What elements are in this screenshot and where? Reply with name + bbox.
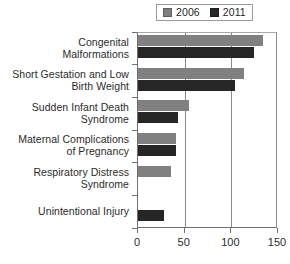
x-axis-tick-0 <box>137 228 138 233</box>
legend-label-2011: 2011 <box>223 6 246 18</box>
bar-2011-sudden-infant-death-syndrome[interactable] <box>138 112 178 123</box>
bar-group-congenital-malformations <box>138 33 276 66</box>
legend-swatch-2011-icon <box>210 8 219 17</box>
category-label-line: Short Gestation and Low <box>0 68 129 80</box>
category-label-maternal-complications-of-pregnancy: Maternal Complications of Pregnancy <box>0 133 129 158</box>
category-label-sudden-infant-death-syndrome: Sudden Infant Death Syndrome <box>0 101 129 126</box>
bar-group-sudden-infant-death-syndrome <box>138 98 276 131</box>
x-axis-label-100: 100 <box>221 236 239 249</box>
x-axis-label-150: 150 <box>268 236 286 249</box>
category-label-unintentional-injury: Unintentional Injury <box>0 205 129 217</box>
category-label-line: Respiratory Distress <box>0 166 129 178</box>
bar-group-maternal-complications-of-pregnancy <box>138 131 276 164</box>
category-axis-labels: Congenital Malformations Short Gestation… <box>0 32 133 228</box>
bar-group-unintentional-injury <box>138 196 276 229</box>
category-label-line: Syndrome <box>0 178 129 190</box>
category-label-line: Birth Weight <box>0 80 129 92</box>
category-label-short-gestation-low-birth-weight: Short Gestation and Low Birth Weight <box>0 68 129 93</box>
legend-item-2006[interactable]: 2006 <box>163 6 200 18</box>
legend-swatch-2006-icon <box>163 8 172 17</box>
category-label-line: of Pregnancy <box>0 145 129 157</box>
bar-2006-short-gestation-low-birth-weight[interactable] <box>138 68 244 79</box>
bar-2006-maternal-complications-of-pregnancy[interactable] <box>138 133 176 144</box>
x-axis-label-50: 50 <box>178 236 190 249</box>
bar-2011-congenital-malformations[interactable] <box>138 47 254 58</box>
bar-2011-short-gestation-low-birth-weight[interactable] <box>138 80 235 91</box>
category-label-respiratory-distress-syndrome: Respiratory Distress Syndrome <box>0 166 129 191</box>
category-label-line: Congenital <box>0 36 129 48</box>
bar-2006-congenital-malformations[interactable] <box>138 35 263 46</box>
bar-groups <box>138 33 276 227</box>
bar-2011-unintentional-injury[interactable] <box>138 210 164 221</box>
bar-2011-maternal-complications-of-pregnancy[interactable] <box>138 145 176 156</box>
category-label-line: Malformations <box>0 48 129 60</box>
plot-area <box>137 32 277 228</box>
category-label-line: Sudden Infant Death <box>0 101 129 113</box>
category-label-line: Syndrome <box>0 113 129 125</box>
x-axis-tick-100 <box>230 228 231 233</box>
x-axis-tick-150 <box>277 228 278 233</box>
x-axis-label-0: 0 <box>134 236 140 249</box>
bar-2006-sudden-infant-death-syndrome[interactable] <box>138 100 189 111</box>
bar-chart: 2006 2011 Congenital Malformations Short… <box>0 0 290 264</box>
category-label-congenital-malformations: Congenital Malformations <box>0 36 129 61</box>
x-axis-tick-50 <box>184 228 185 233</box>
category-label-line: Maternal Complications <box>0 133 129 145</box>
legend-label-2006: 2006 <box>176 6 200 18</box>
legend-item-2011[interactable]: 2011 <box>210 6 246 18</box>
bar-group-short-gestation-low-birth-weight <box>138 66 276 99</box>
chart-legend: 2006 2011 <box>156 4 253 21</box>
bar-2006-respiratory-distress-syndrome[interactable] <box>138 166 171 177</box>
category-label-line: Unintentional Injury <box>0 205 129 217</box>
bar-group-respiratory-distress-syndrome <box>138 164 276 197</box>
